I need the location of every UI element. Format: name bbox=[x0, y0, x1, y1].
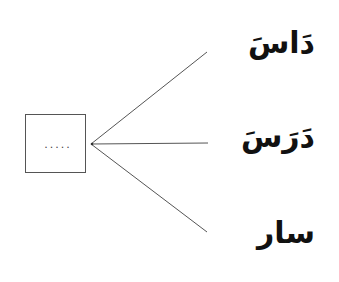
option-word-2[interactable]: دَرَسَ bbox=[241, 122, 315, 152]
connector-line-top bbox=[91, 52, 207, 144]
option-word-1[interactable]: دَاسَ bbox=[248, 28, 315, 58]
connector-origin-dot bbox=[91, 143, 94, 146]
option-word-3[interactable]: سار bbox=[257, 218, 315, 248]
connector-line-bottom bbox=[91, 144, 207, 232]
connector-line-middle bbox=[91, 143, 208, 144]
